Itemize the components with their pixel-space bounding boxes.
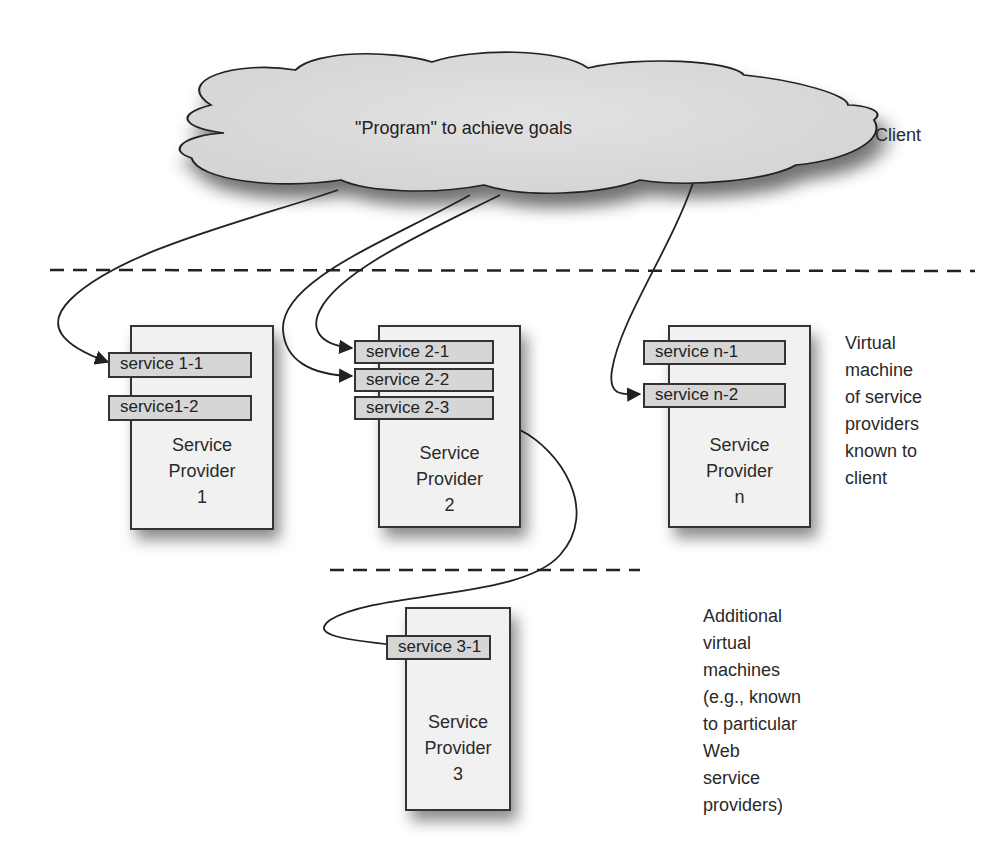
label-line: virtual (703, 630, 801, 657)
label-line: providers) (703, 792, 801, 819)
additional-vm-label: Additional virtual machines (e.g., known… (703, 603, 801, 819)
provider-id: 3 (407, 761, 509, 787)
client-label: Client (875, 122, 921, 149)
label-line: machines (703, 657, 801, 684)
label-line: Additional (703, 603, 801, 630)
provider-title: Provider (380, 466, 519, 492)
separator-client (50, 270, 975, 271)
provider-title: Service (670, 432, 809, 458)
provider-title: Service (380, 440, 519, 466)
virtual-machine-label: Virtual machine of service providers kno… (845, 330, 922, 492)
label-line: known to (845, 438, 922, 465)
provider-id: n (670, 484, 809, 510)
service-1-1: service 1-1 (108, 352, 252, 378)
provider-title: Provider (132, 458, 272, 484)
label-line: machine (845, 357, 922, 384)
service-n-2: service n-2 (643, 383, 786, 408)
provider-title: Provider (407, 735, 509, 761)
provider-label: Service Provider 1 (132, 432, 272, 510)
label-line: client (845, 465, 922, 492)
provider-label: Service Provider n (670, 432, 809, 510)
cloud-text: "Program" to achieve goals (355, 118, 572, 139)
service-n-1: service n-1 (643, 340, 786, 365)
service-3-1: service 3-1 (386, 635, 491, 660)
label-line: Virtual (845, 330, 922, 357)
provider-title: Service (132, 432, 272, 458)
label-line: Web (703, 738, 801, 765)
provider-label: Service Provider 2 (380, 440, 519, 518)
label-line: service (703, 765, 801, 792)
diagram-canvas: "Program" to achieve goals Client Servic… (0, 0, 1006, 864)
provider-title: Provider (670, 458, 809, 484)
provider-id: 2 (380, 492, 519, 518)
label-line: to particular (703, 711, 801, 738)
provider-id: 1 (132, 484, 272, 510)
provider-label: Service Provider 3 (407, 709, 509, 787)
service-2-3: service 2-3 (354, 396, 494, 420)
service-2-2: service 2-2 (354, 368, 494, 392)
label-line: providers (845, 411, 922, 438)
service-2-1: service 2-1 (354, 340, 494, 364)
label-line: (e.g., known (703, 684, 801, 711)
provider-title: Service (407, 709, 509, 735)
label-line: of service (845, 384, 922, 411)
service-1-2: service1-2 (108, 395, 252, 421)
